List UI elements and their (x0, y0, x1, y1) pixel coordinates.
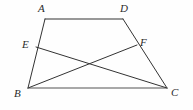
segment-ab (28, 19, 45, 88)
edge-layer (28, 19, 167, 88)
segment-bf (28, 45, 137, 88)
vertex-label-c: C (171, 87, 178, 98)
segment-dc (123, 19, 167, 88)
vertex-label-d: D (120, 3, 128, 14)
vertex-label-e: E (22, 39, 29, 50)
figure-canvas (0, 0, 193, 110)
vertex-label-b: B (14, 88, 21, 99)
geometry-figure: ADEFBC (0, 0, 193, 110)
vertex-label-f: F (140, 37, 147, 48)
vertex-label-a: A (38, 3, 45, 14)
segment-ec (36, 47, 167, 88)
